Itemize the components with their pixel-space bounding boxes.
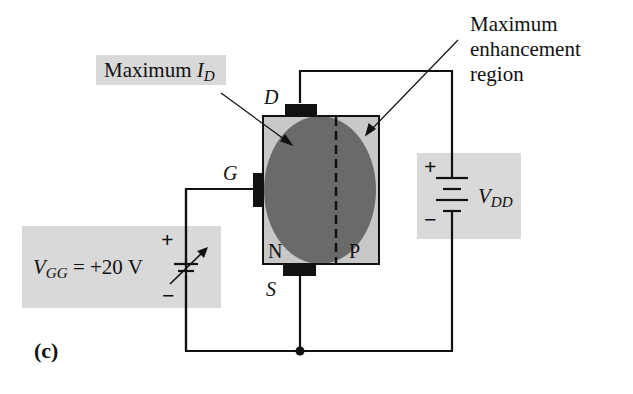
max-id-callout: Maximum ID [104,60,215,84]
vdd-plus-sign: + [424,156,437,178]
gate-pad [253,173,264,207]
source-label: S [266,279,276,299]
vdd-subscript: DD [491,194,513,210]
source-pad [283,264,316,276]
gate-label: G [223,163,237,183]
max-enhancement-line1: Maximum [470,12,581,37]
max-enhancement-line3: region [470,62,581,87]
vdd-battery-icon [436,178,468,211]
drain-label: D [264,87,278,107]
vgg-label: VGG = +20 V [33,257,143,281]
vgg-value: = +20 V [73,255,143,279]
id-variable: I [197,58,204,82]
n-region-label: N [268,241,282,261]
vgg-plus-sign: + [161,229,174,251]
max-id-text: Maximum [104,58,192,82]
p-region-label: P [349,241,360,261]
vdd-variable: V [478,184,491,208]
vdd-label: VDD [478,186,513,210]
max-enhancement-callout: Maximum enhancement region [470,12,581,87]
vdd-minus-sign: − [424,209,437,231]
vgg-variable-battery-icon [170,189,204,351]
junction-node-icon [296,347,305,356]
panel-label: (c) [34,340,58,362]
vgg-minus-sign: − [162,285,175,307]
vgg-variable: V [33,255,46,279]
id-subscript: D [204,68,215,84]
max-enhancement-line2: enhancement [470,37,581,62]
drain-pad [285,104,317,116]
vgg-subscript: GG [46,265,68,281]
